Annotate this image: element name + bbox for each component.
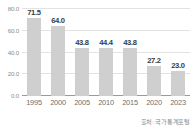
bar-group[interactable]: 43.8	[123, 9, 137, 96]
bar-value-label: 43.8	[123, 39, 137, 47]
y-tick-label: 80.0	[8, 6, 19, 12]
x-tick-label: 2020	[146, 99, 162, 106]
bar-group[interactable]: 27.2	[147, 9, 161, 96]
x-tick-label: 1995	[26, 99, 42, 106]
bars: 71.564.043.844.443.827.223.0	[22, 9, 190, 96]
bar-group[interactable]: 71.5	[27, 9, 41, 96]
x-tick-label: 2015	[122, 99, 138, 106]
bar[interactable]	[123, 48, 137, 96]
bar-value-label: 43.8	[75, 39, 89, 47]
y-axis-tick-labels: 0.020.040.060.080.0	[0, 9, 21, 96]
plot-area: 71.564.043.844.443.827.223.0	[22, 9, 190, 96]
bar[interactable]	[75, 48, 89, 96]
y-tick-label: 0.0	[11, 93, 19, 99]
x-tick-label: 2000	[50, 99, 66, 106]
bar-chart-figure: 0.020.040.060.080.0 71.564.043.844.443.8…	[0, 0, 194, 127]
bar-group[interactable]: 44.4	[99, 9, 113, 96]
bar[interactable]	[171, 71, 185, 96]
bar-value-label: 64.0	[51, 17, 65, 25]
y-tick-label: 20.0	[8, 71, 19, 77]
x-axis-tick-labels: 1995200020052010201520202023	[22, 99, 190, 111]
x-tick-label: 2005	[74, 99, 90, 106]
x-tick-label: 2023	[170, 99, 186, 106]
y-tick-label: 40.0	[8, 49, 19, 55]
bar[interactable]	[99, 48, 113, 96]
bar[interactable]	[147, 66, 161, 96]
source-note: 출처: 국가통계포털	[141, 119, 190, 125]
bar[interactable]	[27, 18, 41, 96]
bar-value-label: 23.0	[171, 62, 185, 70]
bar-group[interactable]: 43.8	[75, 9, 89, 96]
bar[interactable]	[51, 26, 65, 96]
x-tick-label: 2010	[98, 99, 114, 106]
bar-value-label: 71.5	[27, 9, 41, 17]
bar-group[interactable]: 64.0	[51, 9, 65, 96]
y-tick-label: 60.0	[8, 28, 19, 34]
bar-group[interactable]: 23.0	[171, 9, 185, 96]
bar-value-label: 27.2	[147, 57, 161, 65]
bar-value-label: 44.4	[99, 39, 113, 47]
